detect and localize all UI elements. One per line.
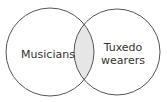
tuxedo-label-line2: wearers [98,54,148,67]
tuxedo-wearers-label: Tuxedo wearers [98,41,148,67]
tuxedo-label-line1: Tuxedo [98,41,148,54]
musicians-label: Musicians [18,48,78,61]
